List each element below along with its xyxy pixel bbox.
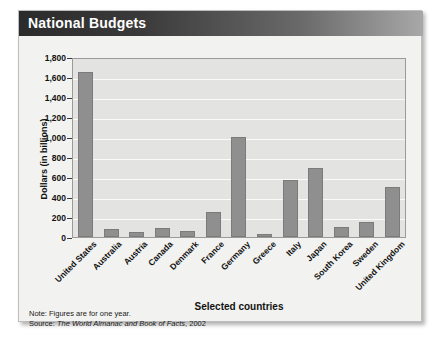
bar (104, 229, 119, 238)
bar (155, 228, 170, 238)
y-axis-tick-label: 1,000 (31, 133, 66, 143)
y-axis-tick-mark (67, 238, 72, 239)
chart-area: Dollars (in billions) 1,8001,6001,4001,2… (19, 36, 423, 323)
y-axis-tick-mark (67, 158, 72, 159)
bar (334, 227, 349, 237)
y-axis-tick-label: 800 (31, 153, 66, 163)
y-axis-tick-label: 200 (31, 213, 66, 223)
y-axis-tick-label: 600 (31, 173, 66, 183)
footnote-note: Note: Figures are for one year. (29, 309, 206, 319)
bar (129, 232, 144, 237)
bar (283, 180, 298, 237)
footnote-source: Source: The World Almanac and Book of Fa… (29, 319, 206, 329)
bar (385, 187, 400, 237)
x-axis-tick-label: United States (52, 239, 97, 284)
y-axis-tick-mark (67, 78, 72, 79)
footnote-source-title: The World Almanac and Book of Facts (57, 319, 185, 328)
y-axis-tick-label: 0 (31, 233, 66, 243)
y-axis-tick-mark (67, 98, 72, 99)
bars-layer (73, 59, 405, 237)
y-axis-tick-mark (67, 58, 72, 59)
footnote-source-prefix: Source: (29, 319, 55, 328)
x-axis-tick-label: Greece (250, 239, 277, 266)
x-axis-tick-label: Austria (122, 239, 150, 267)
bar (206, 212, 221, 237)
y-axis-tick-label: 1,600 (31, 73, 66, 83)
figure-card: National Budgets Dollars (in billions) 1… (18, 10, 422, 322)
y-axis-tick-label: 1,800 (31, 53, 66, 63)
x-axis-tick-labels: United StatesAustraliaAustriaCanadaDenma… (72, 239, 406, 301)
y-axis-tick-mark (67, 218, 72, 219)
x-axis-tick-label: United Kingdom (353, 239, 406, 292)
y-axis-tick-label: 1,400 (31, 93, 66, 103)
y-axis-tick-mark (67, 198, 72, 199)
y-axis-tick-label: 1,200 (31, 113, 66, 123)
plot-area (72, 58, 406, 238)
y-axis-tick-mark (67, 138, 72, 139)
y-axis-tick-label: 400 (31, 193, 66, 203)
x-axis-tick-label: Italy (284, 239, 303, 258)
bar (180, 231, 195, 237)
bar (359, 222, 374, 237)
figure-title: National Budgets (28, 15, 146, 31)
figure-footnotes: Note: Figures are for one year. Source: … (29, 309, 206, 329)
footnote-source-year: , 2002 (185, 319, 206, 328)
y-axis-tick-mark (67, 118, 72, 119)
bar (78, 72, 93, 237)
figure-title-bar: National Budgets (19, 11, 423, 36)
y-axis-tick-mark (67, 178, 72, 179)
bar (231, 137, 246, 237)
y-axis-tick-labels: 1,8001,6001,4001,2001,0008006004002000 (31, 58, 66, 238)
bar (257, 234, 272, 237)
bar (308, 168, 323, 237)
